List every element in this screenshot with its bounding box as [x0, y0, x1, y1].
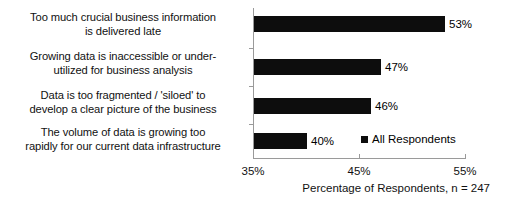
legend: All Respondents	[361, 133, 456, 145]
bar-value-0: 53%	[449, 16, 472, 32]
bar-value-1: 47%	[385, 59, 408, 75]
y-axis-tick-2	[249, 124, 253, 125]
bar-value-3: 40%	[311, 133, 334, 149]
legend-swatch-icon	[361, 136, 368, 143]
legend-label-all-respondents: All Respondents	[372, 133, 456, 145]
category-label-3-line-1: The volume of data is growing too	[0, 126, 246, 140]
category-label-0-line-2: is delivered late	[0, 25, 246, 39]
bar-chart: Too much crucial business information is…	[0, 0, 507, 216]
plot-area: 53% 47% 46% 40% All Respondents 35% 45% …	[253, 6, 507, 158]
bar-2[interactable]	[254, 98, 371, 114]
x-tick-label-0: 35%	[241, 165, 264, 177]
x-tick-label-2: 55%	[453, 165, 476, 177]
bar-3[interactable]	[254, 133, 307, 149]
bar-0[interactable]	[254, 16, 445, 32]
y-axis-tick-0	[249, 48, 253, 49]
category-label-2-line-1: Data is too fragmented / 'siloed' to	[0, 89, 246, 103]
category-label-2: Data is too fragmented / 'siloed' to dev…	[0, 89, 246, 116]
category-label-1-line-2: utilized for business analysis	[0, 64, 246, 78]
category-label-0-line-1: Too much crucial business information	[0, 11, 246, 25]
x-tick-label-1: 45%	[347, 165, 370, 177]
category-label-0: Too much crucial business information is…	[0, 11, 246, 38]
x-axis-title: Percentage of Respondents, n = 247	[302, 182, 490, 194]
bar-value-2: 46%	[375, 98, 398, 114]
category-label-2-line-2: develop a clear picture of the business	[0, 103, 246, 117]
category-axis-labels: Too much crucial business information is…	[0, 0, 250, 158]
y-axis-tick-1	[249, 86, 253, 87]
x-axis-tick-45	[359, 154, 360, 159]
bar-1[interactable]	[254, 59, 381, 75]
category-label-1: Growing data is inaccessible or under- u…	[0, 50, 246, 77]
x-axis-tick-55	[465, 154, 466, 159]
x-axis-tick-35	[253, 154, 254, 159]
category-label-3-line-2: rapidly for our current data infrastruct…	[0, 140, 246, 154]
category-label-3: The volume of data is growing too rapidl…	[0, 126, 246, 153]
category-label-1-line-1: Growing data is inaccessible or under-	[0, 50, 246, 64]
